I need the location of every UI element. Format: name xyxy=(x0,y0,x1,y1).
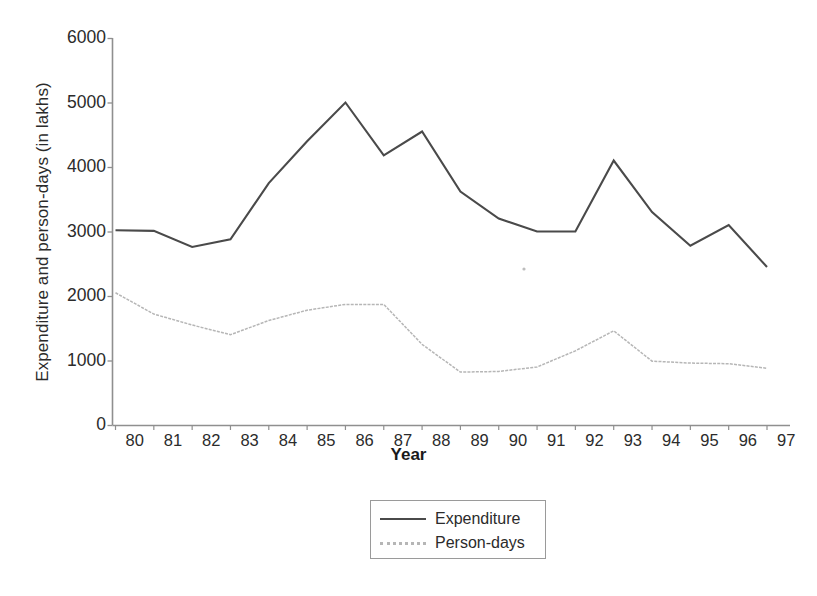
solid-line-swatch-icon xyxy=(380,514,426,524)
y-tick-label: 4000 xyxy=(42,158,106,176)
dotted-line-swatch-icon xyxy=(380,538,426,548)
series-line-expenditure xyxy=(116,103,768,267)
y-tick-label: 2000 xyxy=(42,287,106,305)
legend-label: Expenditure xyxy=(435,510,520,528)
chart-legend: Expenditure Person-days xyxy=(370,500,546,559)
series-line-person-days xyxy=(116,293,768,372)
y-axis-tick-labels: 0100020003000400050006000 xyxy=(36,0,106,596)
chart-figure: Expenditure and person-days (in lakhs) 0… xyxy=(0,0,817,596)
y-tick-label: 6000 xyxy=(42,29,106,47)
legend-label: Person-days xyxy=(435,534,525,552)
data-series-layer xyxy=(116,103,768,373)
legend-item-person-days[interactable]: Person-days xyxy=(371,531,545,555)
x-axis-title: Year xyxy=(0,445,817,465)
legend-item-expenditure[interactable]: Expenditure xyxy=(371,507,545,531)
y-tick-label: 0 xyxy=(42,416,106,434)
y-tick-label: 3000 xyxy=(42,223,106,241)
y-tick-label: 1000 xyxy=(42,352,106,370)
y-tick-label: 5000 xyxy=(42,94,106,112)
scan-speck xyxy=(522,267,525,270)
